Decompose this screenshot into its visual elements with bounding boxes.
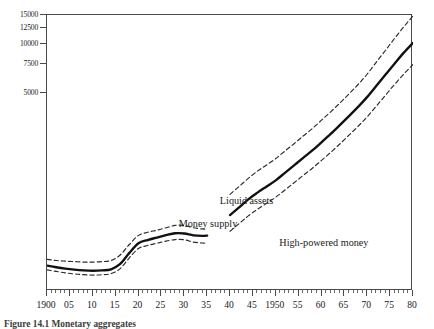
x-tick-major bbox=[206, 290, 207, 296]
x-tick-minor bbox=[78, 290, 79, 293]
y-tick-label: 7500 bbox=[0, 58, 38, 67]
x-tick-minor bbox=[394, 290, 395, 293]
x-tick-minor bbox=[165, 290, 166, 293]
x-tick-minor bbox=[224, 290, 225, 293]
y-tick-label: 5000 bbox=[0, 87, 38, 96]
x-tick-label: 05 bbox=[64, 299, 74, 310]
x-tick-major bbox=[321, 290, 322, 296]
x-tick-minor bbox=[170, 290, 171, 293]
x-tick-major bbox=[298, 290, 299, 296]
x-tick-minor bbox=[151, 290, 152, 293]
x-tick-label: 40 bbox=[224, 299, 234, 310]
x-tick-minor bbox=[133, 290, 134, 293]
series-line-high-powered-money-seg1 bbox=[230, 64, 413, 231]
x-tick-minor bbox=[380, 290, 381, 293]
x-tick-minor bbox=[311, 290, 312, 293]
x-tick-minor bbox=[339, 290, 340, 293]
x-tick-major bbox=[183, 290, 184, 296]
x-tick-label: 25 bbox=[156, 299, 166, 310]
x-tick-minor bbox=[348, 290, 349, 293]
x-tick-minor bbox=[302, 290, 303, 293]
x-tick-minor bbox=[293, 290, 294, 293]
x-tick-minor bbox=[96, 290, 97, 293]
x-tick-minor bbox=[403, 290, 404, 293]
x-tick-minor bbox=[238, 290, 239, 293]
x-tick-major bbox=[366, 290, 367, 296]
x-tick-label: 30 bbox=[178, 299, 188, 310]
y-tick-label: 15000 bbox=[0, 10, 38, 19]
x-tick-major bbox=[115, 290, 116, 296]
x-tick-major bbox=[389, 290, 390, 296]
x-tick-minor bbox=[316, 290, 317, 293]
x-tick-label: 75 bbox=[384, 299, 394, 310]
x-tick-label: 60 bbox=[316, 299, 326, 310]
x-tick-minor bbox=[353, 290, 354, 293]
x-tick-major bbox=[412, 290, 413, 296]
y-tick-label: 10000 bbox=[0, 38, 38, 47]
plot-area bbox=[46, 14, 412, 290]
x-tick-label: 65 bbox=[339, 299, 349, 310]
series-line-money-supply-seg0 bbox=[47, 233, 207, 271]
x-tick-major bbox=[252, 290, 253, 296]
x-tick-major bbox=[138, 290, 139, 296]
figure-container: 50007500100001250015000 1900051015202530… bbox=[0, 0, 434, 329]
series-label-liquid-assets: Liquid assets bbox=[220, 195, 273, 206]
x-tick-minor bbox=[334, 290, 335, 293]
x-tick-minor bbox=[83, 290, 84, 293]
x-tick-minor bbox=[60, 290, 61, 293]
x-tick-label: 15 bbox=[110, 299, 120, 310]
x-tick-minor bbox=[211, 290, 212, 293]
x-tick-label: 1950 bbox=[265, 299, 284, 310]
x-tick-minor bbox=[73, 290, 74, 293]
y-tick-mark bbox=[40, 27, 46, 28]
x-tick-label: 45 bbox=[247, 299, 257, 310]
figure-caption: Figure 14.1 Monetary aggregates bbox=[4, 319, 424, 329]
x-tick-minor bbox=[243, 290, 244, 293]
chart-curves bbox=[47, 15, 413, 291]
x-tick-minor bbox=[357, 290, 358, 293]
x-tick-label: 80 bbox=[407, 299, 417, 310]
x-tick-minor bbox=[105, 290, 106, 293]
x-tick-minor bbox=[307, 290, 308, 293]
x-tick-major bbox=[229, 290, 230, 296]
y-tick-mark bbox=[40, 14, 46, 15]
x-tick-minor bbox=[87, 290, 88, 293]
y-tick-mark bbox=[40, 43, 46, 44]
x-tick-minor bbox=[330, 290, 331, 293]
series-line-money-supply-seg1 bbox=[230, 43, 413, 215]
y-tick-mark bbox=[40, 63, 46, 64]
x-tick-minor bbox=[234, 290, 235, 293]
x-tick-minor bbox=[119, 290, 120, 293]
series-label-high-powered-money: High-powered money bbox=[279, 237, 368, 248]
x-tick-minor bbox=[192, 290, 193, 293]
x-tick-minor bbox=[385, 290, 386, 293]
x-tick-minor bbox=[288, 290, 289, 293]
x-tick-minor bbox=[407, 290, 408, 293]
x-tick-minor bbox=[279, 290, 280, 293]
y-tick-label: 12500 bbox=[0, 22, 38, 31]
x-tick-minor bbox=[197, 290, 198, 293]
series-line-liquid-assets-seg1 bbox=[230, 16, 413, 194]
x-tick-major bbox=[160, 290, 161, 296]
x-tick-minor bbox=[128, 290, 129, 293]
x-tick-label: 10 bbox=[87, 299, 97, 310]
x-tick-major bbox=[92, 290, 93, 296]
x-tick-label: 35 bbox=[201, 299, 211, 310]
x-tick-minor bbox=[174, 290, 175, 293]
x-tick-minor bbox=[266, 290, 267, 293]
x-tick-minor bbox=[371, 290, 372, 293]
x-tick-minor bbox=[188, 290, 189, 293]
x-tick-minor bbox=[362, 290, 363, 293]
y-tick-mark bbox=[40, 92, 46, 93]
series-label-money-supply: Money supply bbox=[179, 218, 238, 229]
x-tick-minor bbox=[261, 290, 262, 293]
x-tick-major bbox=[46, 290, 47, 296]
x-tick-minor bbox=[220, 290, 221, 293]
x-tick-label: 70 bbox=[361, 299, 371, 310]
x-tick-minor bbox=[64, 290, 65, 293]
x-tick-major bbox=[275, 290, 276, 296]
x-tick-minor bbox=[124, 290, 125, 293]
x-tick-label: 55 bbox=[293, 299, 303, 310]
x-tick-minor bbox=[142, 290, 143, 293]
x-tick-minor bbox=[398, 290, 399, 293]
